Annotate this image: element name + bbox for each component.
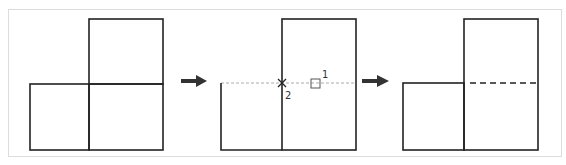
- marker-label-1: 1: [322, 68, 328, 81]
- arrow-right-icon: [181, 75, 207, 87]
- result-shape: [403, 19, 538, 150]
- diagram-frame: [9, 10, 562, 157]
- diagram-canvas: 1 2: [0, 0, 566, 165]
- arrow-right-icon: [362, 75, 389, 87]
- trim-step: 1 2: [221, 19, 356, 150]
- marker-label-2: 2: [285, 89, 291, 102]
- initial-shape: [30, 19, 163, 150]
